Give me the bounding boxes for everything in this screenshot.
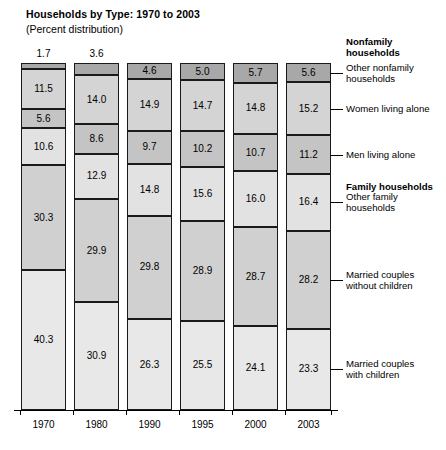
bar-segment: 3.6 xyxy=(74,63,119,75)
bar-1995: 5.014.710.215.628.925.5 xyxy=(180,63,225,410)
bar-segment: 5.7 xyxy=(233,63,278,83)
bar-segment: 15.6 xyxy=(180,167,225,221)
bar-segment: 10.6 xyxy=(21,128,66,165)
bar-segment: 28.2 xyxy=(286,231,331,329)
bar-segment: 28.7 xyxy=(233,227,278,327)
bar-segment: 11.5 xyxy=(21,69,66,109)
bar-segment: 10.2 xyxy=(180,131,225,166)
chart-root: Households by Type: 1970 to 2003 (Percen… xyxy=(0,0,446,450)
bar-segment: 14.7 xyxy=(180,80,225,131)
legend-leader-line xyxy=(330,73,343,74)
axis-year-label-1980: 1980 xyxy=(66,419,127,430)
legend-entry: Other family households xyxy=(346,191,446,213)
bar-segment: 14.9 xyxy=(127,79,172,131)
bar-segment: 14.8 xyxy=(127,164,172,215)
segment-value-label: 30.3 xyxy=(34,213,53,223)
bar-segment: 4.6 xyxy=(127,63,172,79)
bar-segment: 11.2 xyxy=(286,135,331,174)
segment-value-label: 16.4 xyxy=(299,197,318,207)
bar-1990: 4.614.99.714.829.826.3 xyxy=(127,63,172,410)
bar-segment: 14.0 xyxy=(74,75,119,124)
legend-leader-line xyxy=(330,369,343,370)
segment-value-label: 12.9 xyxy=(87,171,106,181)
chart-legend: Nonfamily householdsOther nonfamily hous… xyxy=(330,0,446,450)
legend-entry: Men living alone xyxy=(346,149,446,160)
segment-value-label: 8.6 xyxy=(90,134,104,144)
bar-segment: 16.4 xyxy=(286,174,331,231)
bar-1970: 1.711.55.610.630.340.3 xyxy=(21,63,66,410)
legend-leader-line xyxy=(330,155,343,156)
segment-value-label: 14.0 xyxy=(87,95,106,105)
bar-segment: 8.6 xyxy=(74,124,119,154)
segment-value-label: 25.5 xyxy=(193,360,212,370)
bar-segment: 12.9 xyxy=(74,154,119,199)
axis-year-label-1995: 1995 xyxy=(172,419,233,430)
bar-segment: 30.9 xyxy=(74,302,119,409)
bar-segment: 5.6 xyxy=(21,109,66,128)
axis-year-label-1990: 1990 xyxy=(119,419,180,430)
bar-2003: 5.615.211.216.428.223.3 xyxy=(286,63,331,410)
segment-value-label: 23.3 xyxy=(299,364,318,374)
bar-1980: 3.614.08.612.929.930.9 xyxy=(74,63,119,410)
legend-entry: Women living alone xyxy=(346,103,446,114)
bar-segment: 29.8 xyxy=(127,216,172,319)
bar-segment: 25.5 xyxy=(180,321,225,409)
segment-value-label: 5.7 xyxy=(249,68,263,78)
legend-leader-line xyxy=(330,109,343,110)
bar-segment: 29.9 xyxy=(74,199,119,303)
segment-value-label: 16.0 xyxy=(246,194,265,204)
legend-entry: Nonfamily households xyxy=(346,36,446,58)
segment-value-label: 28.7 xyxy=(246,272,265,282)
segment-value-label: 11.5 xyxy=(34,84,53,94)
bar-segment: 14.8 xyxy=(233,83,278,134)
x-axis-line xyxy=(14,410,338,411)
legend-leader-line xyxy=(330,280,343,281)
plot-area: 1.71.711.55.610.630.340.319703.63.614.08… xyxy=(0,0,330,450)
bar-segment: 40.3 xyxy=(21,270,66,410)
bar-segment: 28.9 xyxy=(180,221,225,321)
segment-value-label-outside: 1.7 xyxy=(21,48,66,59)
segment-value-label: 11.2 xyxy=(299,150,318,160)
bar-segment: 5.6 xyxy=(286,63,331,82)
axis-year-label-1970: 1970 xyxy=(13,419,74,430)
segment-value-label: 14.9 xyxy=(140,100,159,110)
segment-value-label: 10.2 xyxy=(193,144,212,154)
segment-value-label: 14.8 xyxy=(246,103,265,113)
segment-value-label: 5.6 xyxy=(37,114,51,124)
bar-segment: 9.7 xyxy=(127,131,172,165)
bar-segment: 5.0 xyxy=(180,63,225,80)
segment-value-label: 10.7 xyxy=(246,148,265,158)
bar-segment: 30.3 xyxy=(21,165,66,270)
segment-value-label: 29.8 xyxy=(140,262,159,272)
legend-entry: Other nonfamily households xyxy=(346,62,446,84)
bar-segment: 24.1 xyxy=(233,326,278,410)
bar-2000: 5.714.810.716.028.724.1 xyxy=(233,63,278,410)
segment-value-label: 29.9 xyxy=(87,246,106,256)
legend-entry: Married couples without children xyxy=(346,269,446,291)
legend-entry: Married couples with children xyxy=(346,358,446,380)
segment-value-label: 5.0 xyxy=(196,67,210,77)
segment-value-label: 14.8 xyxy=(140,185,159,195)
axis-year-label-2000: 2000 xyxy=(225,419,286,430)
segment-value-label: 28.9 xyxy=(193,266,212,276)
segment-value-label: 9.7 xyxy=(143,142,157,152)
segment-value-label-outside: 3.6 xyxy=(74,48,119,59)
bar-segment: 23.3 xyxy=(286,329,331,410)
segment-value-label: 26.3 xyxy=(140,360,159,370)
segment-value-label: 15.6 xyxy=(193,189,212,199)
segment-value-label: 14.7 xyxy=(193,101,212,111)
bar-segment: 10.7 xyxy=(233,134,278,171)
legend-leader-line xyxy=(330,202,343,203)
segment-value-label: 28.2 xyxy=(299,275,318,285)
segment-value-label: 4.6 xyxy=(143,66,157,76)
segment-value-label: 24.1 xyxy=(246,363,265,373)
segment-value-label: 40.3 xyxy=(34,335,53,345)
bar-segment: 15.2 xyxy=(286,82,331,135)
bar-segment: 26.3 xyxy=(127,319,172,410)
segment-value-label: 10.6 xyxy=(34,142,53,152)
segment-value-label: 15.2 xyxy=(299,104,318,114)
bar-segment: 16.0 xyxy=(233,171,278,227)
segment-value-label: 30.9 xyxy=(87,351,106,361)
segment-value-label: 5.6 xyxy=(302,68,316,78)
